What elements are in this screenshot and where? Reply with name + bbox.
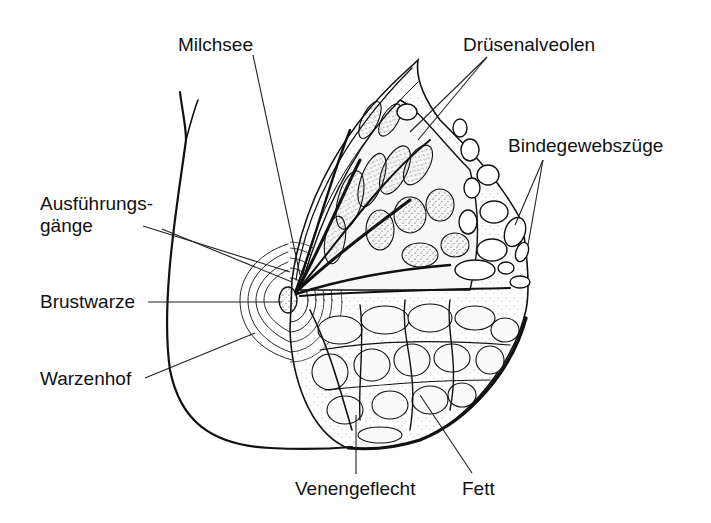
label-ausfuehrungsgaenge-line1: Ausführungs- <box>40 193 153 215</box>
label-venengeflecht: Venengeflecht <box>295 478 415 500</box>
label-brustwarze: Brustwarze <box>40 291 135 313</box>
leader-bindegewebszuege-1 <box>515 160 543 225</box>
label-bindegewebszuege: Bindegewebszüge <box>508 135 663 157</box>
leader-warzenhof <box>145 333 255 378</box>
leader-bindegewebszuege-2 <box>528 160 543 245</box>
label-ausfuehrungsgaenge-line2: gänge <box>40 215 93 237</box>
label-warzenhof: Warzenhof <box>40 368 131 390</box>
breast-anatomy-drawing <box>0 0 711 523</box>
label-fett: Fett <box>462 478 495 500</box>
label-milchsee: Milchsee <box>178 34 253 56</box>
label-druesenalveolen: Drüsenalveolen <box>463 34 595 56</box>
